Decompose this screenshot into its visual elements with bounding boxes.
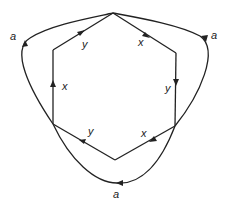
- label-bottom-ll: y: [87, 125, 95, 137]
- edge-a-bottom: [53, 124, 175, 183]
- label-ll-ul: x: [61, 80, 68, 92]
- arrow-icon: [173, 79, 179, 86]
- label-ur-lr: y: [164, 82, 172, 94]
- arrow-icon: [116, 180, 123, 186]
- edge-a-right: [113, 13, 208, 126]
- label-top-ur: x: [137, 36, 144, 48]
- arrow-icon: [50, 80, 56, 87]
- label-lr-bottom: x: [140, 127, 147, 139]
- label-a-bottom: a: [113, 188, 119, 200]
- graph-diagram: y x y x y x a a a: [0, 0, 229, 207]
- label-ul-top: y: [81, 38, 89, 50]
- label-a-left: a: [10, 30, 16, 42]
- label-a-right: a: [211, 29, 217, 41]
- edge-a-left: [22, 13, 113, 124]
- edge-upper-right-lower-right: [175, 53, 176, 126]
